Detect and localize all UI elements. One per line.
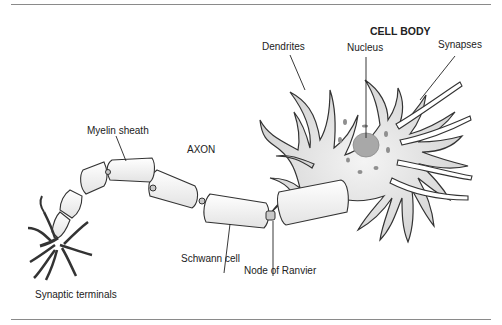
node-of-ranvier bbox=[266, 211, 275, 220]
label-cell-body: CELL BODY bbox=[370, 26, 430, 37]
label-synaptic-terminals: Synaptic terminals bbox=[35, 290, 117, 300]
neuron-diagram bbox=[0, 0, 502, 325]
label-nucleus: Nucleus bbox=[347, 43, 383, 53]
label-axon: AXON bbox=[187, 145, 215, 155]
label-dendrites: Dendrites bbox=[262, 42, 305, 52]
label-schwann-cell: Schwann cell bbox=[181, 254, 240, 264]
label-node-of-ranvier: Node of Ranvier bbox=[244, 266, 316, 276]
label-myelin-sheath: Myelin sheath bbox=[87, 126, 149, 136]
label-synapses: Synapses bbox=[438, 40, 482, 50]
